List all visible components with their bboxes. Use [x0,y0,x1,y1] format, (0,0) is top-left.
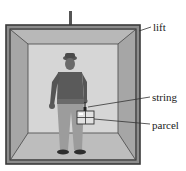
label-parcel: parcel [152,119,179,131]
label-string: string [152,91,177,103]
string-knot [84,107,87,111]
parcel [77,111,94,124]
suspension-rod [69,11,72,26]
lift-diagram: lift string parcel [0,0,186,171]
lift-ceiling [11,30,135,44]
label-lift: lift [153,21,166,33]
